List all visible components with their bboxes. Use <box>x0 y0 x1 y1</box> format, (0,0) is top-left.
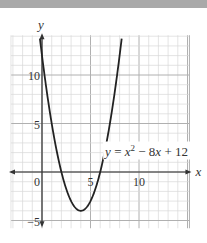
x-axis-label: x <box>195 164 202 179</box>
x-axis-arrow-right-icon <box>185 170 191 175</box>
equation-label: y = x2 − 8x + 12 <box>103 142 190 160</box>
x-tick-label: 10 <box>133 175 145 189</box>
x-axis-arrow-left-icon <box>9 170 15 175</box>
y-tick-label: 5 <box>34 118 40 132</box>
y-axis-label: y <box>36 17 44 32</box>
x-tick-label: 0 <box>34 175 40 189</box>
parabola-chart: yx0510510−5 y = x2 − 8x + 12 <box>0 0 207 243</box>
y-tick-label: 10 <box>28 69 40 83</box>
y-tick-label: −5 <box>27 215 40 229</box>
x-tick-label: 5 <box>88 175 94 189</box>
y-axis-arrow-down-icon <box>40 221 45 227</box>
equation-text: y = x2 − 8x + 12 <box>103 143 188 159</box>
grid <box>11 35 189 228</box>
tick-labels: yx0510510−5 <box>27 17 201 229</box>
